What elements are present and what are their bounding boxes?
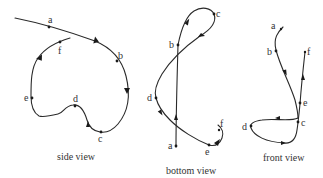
front-view-trajectory-loop <box>251 52 305 143</box>
side-label-c: c <box>98 133 103 144</box>
front-point-a <box>280 28 282 30</box>
front-label-d: d <box>242 121 247 132</box>
bottom-point-c <box>213 13 216 16</box>
front-point-e <box>299 102 302 105</box>
side-view: a b c d e f side view <box>15 14 130 162</box>
front-label-f: f <box>307 46 311 57</box>
bottom-arrow-icon-1 <box>174 114 178 120</box>
trajectory-diagram: a b c d e f side view a b c d e f bottom… <box>0 0 323 178</box>
bottom-view: a b c d e f bottom view <box>147 8 224 176</box>
bottom-label-d: d <box>147 92 152 103</box>
side-point-d <box>74 105 77 108</box>
side-view-caption: side view <box>57 151 96 162</box>
front-arrow-icon-3 <box>281 141 286 145</box>
side-label-d: d <box>73 93 78 104</box>
front-point-f <box>304 51 306 53</box>
front-view-caption: front view <box>263 152 305 163</box>
side-arrow-icon-3 <box>86 121 90 127</box>
bottom-label-c: c <box>216 8 221 19</box>
bottom-label-e: e <box>205 146 210 157</box>
bottom-view-caption: bottom view <box>166 165 217 176</box>
front-label-c: c <box>301 117 306 128</box>
front-label-b: b <box>267 46 272 57</box>
side-point-e <box>31 97 34 100</box>
side-view-trajectory-main <box>15 18 128 132</box>
front-point-b <box>275 50 278 53</box>
side-label-f: f <box>58 45 62 56</box>
side-label-b: b <box>118 50 123 61</box>
side-label-e: e <box>24 92 29 103</box>
front-point-c <box>297 121 300 124</box>
front-label-a: a <box>271 20 276 31</box>
front-view: a b c d e f front view <box>242 20 311 163</box>
bottom-view-trajectory-vertical <box>176 45 178 147</box>
bottom-label-a: a <box>168 140 173 151</box>
front-arrow-icon-4 <box>301 74 305 80</box>
side-arrow-icon-2 <box>124 88 130 94</box>
bottom-point-b <box>177 44 180 47</box>
front-point-d <box>250 125 253 128</box>
bottom-label-b: b <box>169 39 174 50</box>
side-point-f <box>59 41 62 44</box>
bottom-point-f <box>218 129 220 131</box>
front-view-trajectory-main <box>275 27 298 118</box>
side-label-a: a <box>48 14 53 25</box>
bottom-point-a <box>175 145 178 148</box>
bottom-point-d <box>155 97 158 100</box>
bottom-label-f: f <box>220 118 224 129</box>
side-point-a <box>48 26 51 29</box>
bottom-view-trajectory-loop <box>155 8 223 145</box>
front-label-e: e <box>303 97 308 108</box>
side-arrow-icon-1 <box>93 37 100 45</box>
